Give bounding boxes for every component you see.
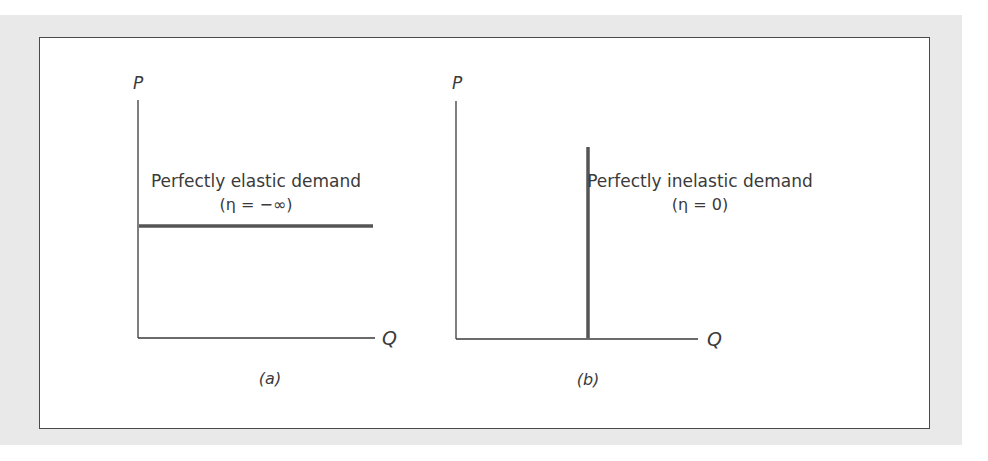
panel-b: P Q Perfectly inelastic demand (η = 0) (… [452,73,813,389]
panel-b-caption: (b) [577,370,600,389]
panel-a-subtitle: (η = −∞) [220,195,293,214]
panel-a-x-label: Q [382,327,397,349]
panel-b-subtitle: (η = 0) [672,195,728,214]
panel-a-title: Perfectly elastic demand [151,171,361,191]
panel-b-title: Perfectly inelastic demand [587,171,813,191]
panel-a-caption: (a) [259,369,281,388]
elasticity-figure: P Q Perfectly elastic demand (η = −∞) (a… [0,0,988,461]
panel-b-y-label: P [452,73,463,93]
panel-a-y-label: P [133,73,144,93]
panel-a: P Q Perfectly elastic demand (η = −∞) (a… [133,73,397,388]
panel-b-x-label: Q [707,328,722,350]
